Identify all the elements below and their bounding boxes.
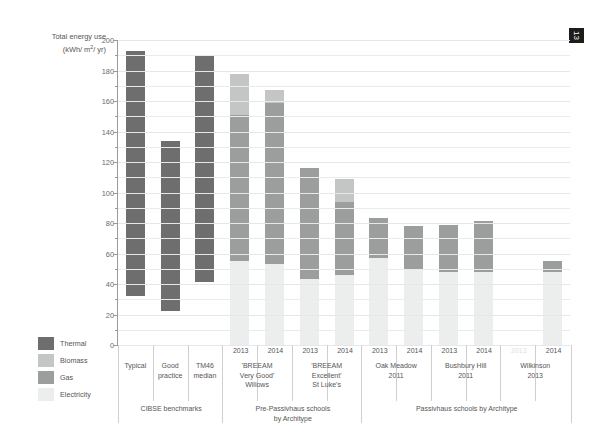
gridline bbox=[118, 101, 570, 102]
y-axis-tick-major bbox=[113, 193, 118, 194]
y-axis-tick-label: 120 bbox=[74, 158, 114, 167]
bar-segment-electricity[interactable] bbox=[300, 279, 319, 345]
y-axis-tick-label: 180 bbox=[74, 66, 114, 75]
y-axis-tick-label: 60 bbox=[74, 249, 114, 258]
category-cell[interactable] bbox=[118, 345, 154, 401]
bar-segment-gas[interactable] bbox=[543, 261, 562, 272]
page-number-marker: 13 bbox=[569, 28, 584, 43]
y-axis-tick-major bbox=[113, 223, 118, 224]
category-name-line: Willows bbox=[222, 380, 292, 390]
bar-segment-thermal[interactable] bbox=[161, 141, 180, 312]
y-axis-tick-major bbox=[113, 132, 118, 133]
category-name-line: Good bbox=[153, 361, 188, 371]
y-axis-tick-label: 80 bbox=[74, 219, 114, 228]
group-cell: Passivhaus schools by Architype bbox=[361, 401, 572, 423]
category-year-label: 2013 bbox=[223, 347, 258, 354]
gridline bbox=[118, 223, 570, 224]
bar-segment-thermal[interactable] bbox=[126, 51, 145, 297]
y-axis-tick-label: 100 bbox=[74, 188, 114, 197]
y-axis-tick-major bbox=[113, 254, 118, 255]
group-cell: Pre-Passivhaus schoolsby Architype bbox=[222, 401, 362, 423]
category-name-line: practice bbox=[153, 371, 188, 381]
gridline bbox=[118, 299, 570, 300]
gridline bbox=[118, 177, 570, 178]
group-name: Passivhaus schools by Architype bbox=[362, 404, 571, 414]
y-axis-tick-major bbox=[113, 315, 118, 316]
gridline bbox=[118, 55, 570, 56]
bar-segment-gas[interactable] bbox=[265, 103, 284, 265]
legend-label: Gas bbox=[60, 373, 73, 382]
y-axis-tick-label: 20 bbox=[74, 310, 114, 319]
gridline bbox=[118, 147, 570, 148]
category-name-line: Wilkinson bbox=[500, 361, 570, 371]
bar-segment-gas[interactable] bbox=[404, 226, 423, 269]
category-year-label: 2014 bbox=[397, 347, 432, 354]
bar-segment-electricity[interactable] bbox=[369, 258, 388, 345]
gridline bbox=[118, 40, 570, 41]
category-name: 'BREEAMExcellent'St Luke's bbox=[292, 361, 362, 390]
group-name: Pre-Passivhaus schoolsby Architype bbox=[223, 404, 362, 423]
bar-segment-electricity[interactable] bbox=[474, 272, 493, 345]
category-axis-table: 2013201420132014201320142013201420132014… bbox=[118, 345, 570, 423]
category-name-line: Bushbury Hill bbox=[431, 361, 501, 371]
y-axis-tick-major bbox=[113, 101, 118, 102]
y-axis-tick-major bbox=[113, 40, 118, 41]
gridline bbox=[118, 330, 570, 331]
legend-label: Electricity bbox=[60, 390, 91, 399]
y-axis-tick-label: 160 bbox=[74, 97, 114, 106]
category-year-label: 2013 bbox=[362, 347, 397, 354]
group-name-line: Passivhaus schools by Architype bbox=[362, 404, 571, 414]
y-axis-labels: 020406080100120140160180200 bbox=[78, 40, 114, 345]
category-name-line: median bbox=[188, 371, 223, 381]
y-axis-tick-minor bbox=[115, 330, 118, 331]
gridline bbox=[118, 284, 570, 285]
category-name-line: 2011 bbox=[431, 371, 501, 381]
category-name: Bushbury Hill2011 bbox=[431, 361, 501, 380]
legend-swatch-gas bbox=[38, 371, 54, 384]
y-axis-tick-label: 200 bbox=[74, 36, 114, 45]
category-year-label: 2014 bbox=[258, 347, 293, 354]
bar-segment-gas[interactable] bbox=[474, 221, 493, 271]
y-axis-tick-major bbox=[113, 71, 118, 72]
gridline bbox=[118, 71, 570, 72]
gridline bbox=[118, 315, 570, 316]
category-name-line: 'BREEAM bbox=[222, 361, 292, 371]
gridline bbox=[118, 162, 570, 163]
category-name: Oak Meadow2011 bbox=[361, 361, 431, 380]
category-name: Wilkinson2013 bbox=[500, 361, 570, 380]
category-name-line: TM46 bbox=[188, 361, 223, 371]
category-year-label: 2014 bbox=[467, 347, 502, 354]
bar-segment-electricity[interactable] bbox=[335, 275, 354, 345]
y-axis-tick-minor bbox=[115, 299, 118, 300]
bar-segment-electricity[interactable] bbox=[265, 264, 284, 345]
category-name-line: Oak Meadow bbox=[361, 361, 431, 371]
group-name-line: by Architype bbox=[223, 414, 362, 424]
category-name-line: 'BREEAM bbox=[292, 361, 362, 371]
y-axis-tick-label: 140 bbox=[74, 127, 114, 136]
bar-segment-biomass[interactable] bbox=[335, 179, 354, 202]
category-name: Typical bbox=[118, 361, 153, 371]
bar-segment-gas[interactable] bbox=[439, 225, 458, 272]
category-name-line: St Luke's bbox=[292, 380, 362, 390]
legend-swatch-biomass bbox=[38, 354, 54, 367]
y-axis-tick-minor bbox=[115, 269, 118, 270]
gridline bbox=[118, 254, 570, 255]
y-axis-tick-minor bbox=[115, 116, 118, 117]
bar-segment-electricity[interactable] bbox=[230, 261, 249, 345]
y-axis-tick-major bbox=[113, 162, 118, 163]
legend-label: Biomass bbox=[60, 356, 88, 365]
plot-area bbox=[118, 40, 570, 345]
bar-segment-electricity[interactable] bbox=[404, 269, 423, 345]
group-name: CIBSE benchmarks bbox=[119, 404, 223, 414]
y-axis-tick-minor bbox=[115, 147, 118, 148]
y-axis-tick-minor bbox=[115, 177, 118, 178]
bar-segment-thermal[interactable] bbox=[195, 55, 214, 282]
bar-segment-electricity[interactable] bbox=[543, 272, 562, 345]
bar-segment-biomass[interactable] bbox=[230, 74, 249, 115]
category-name: TM46median bbox=[188, 361, 223, 380]
gridline bbox=[118, 238, 570, 239]
group-cell: CIBSE benchmarks bbox=[118, 401, 223, 423]
group-name-line: CIBSE benchmarks bbox=[119, 404, 223, 414]
category-year-label: 2014 bbox=[328, 347, 363, 354]
bar-segment-electricity[interactable] bbox=[439, 272, 458, 345]
